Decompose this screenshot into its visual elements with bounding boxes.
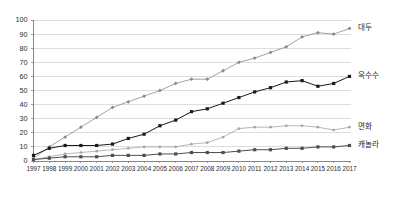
- data-point: [111, 154, 114, 157]
- series-label-4: 캐놀라: [358, 141, 379, 149]
- line-chart: 0102030405060708090100 19971998199920002…: [0, 0, 398, 204]
- data-point: [64, 144, 67, 147]
- data-point: [285, 124, 288, 127]
- axis-lines: [31, 20, 350, 163]
- data-point: [158, 89, 162, 93]
- data-point: [221, 69, 225, 73]
- data-point: [269, 148, 272, 151]
- data-point: [95, 155, 98, 158]
- data-point: [237, 60, 241, 64]
- data-point: [253, 148, 256, 151]
- data-point: [238, 127, 241, 130]
- series-label-1: 대두: [358, 24, 372, 32]
- y-tick-label: 50: [8, 87, 28, 94]
- y-tick-label: 30: [8, 115, 28, 122]
- data-point: [174, 82, 178, 86]
- chart-plot-area: [0, 0, 398, 204]
- data-point: [127, 154, 130, 157]
- data-point: [348, 27, 352, 31]
- data-point: [143, 146, 146, 149]
- y-tick-label: 20: [8, 129, 28, 136]
- data-point: [269, 51, 273, 55]
- data-point: [348, 144, 351, 147]
- data-point: [301, 147, 304, 150]
- data-point: [142, 94, 146, 98]
- data-point: [206, 141, 209, 144]
- y-tick-label: 80: [8, 45, 28, 52]
- data-point: [316, 85, 319, 88]
- data-point: [317, 126, 320, 129]
- gridlines: [34, 20, 351, 161]
- data-point: [32, 158, 35, 161]
- data-point: [253, 90, 256, 93]
- data-point: [48, 147, 51, 150]
- data-point: [206, 107, 209, 110]
- data-point: [79, 155, 82, 158]
- data-point: [127, 147, 130, 150]
- data-point: [64, 153, 67, 156]
- data-point: [32, 154, 35, 157]
- data-point: [126, 100, 130, 104]
- data-point: [222, 136, 225, 139]
- data-point: [300, 35, 304, 39]
- data-point: [332, 82, 335, 85]
- y-tick-label: 60: [8, 73, 28, 80]
- y-tick-label: 0: [8, 157, 28, 164]
- data-point: [158, 124, 161, 127]
- data-point: [348, 126, 351, 129]
- data-point: [111, 142, 114, 145]
- data-point: [63, 135, 67, 139]
- data-point: [190, 143, 193, 146]
- series-1: [32, 27, 352, 161]
- data-point: [332, 129, 335, 132]
- data-point: [190, 77, 194, 81]
- data-point: [95, 150, 98, 153]
- data-point: [159, 146, 162, 149]
- data-point: [79, 144, 82, 147]
- y-tick-label: 10: [8, 143, 28, 150]
- data-point: [348, 75, 351, 78]
- data-point: [301, 124, 304, 127]
- data-point: [64, 155, 67, 158]
- data-point: [237, 96, 240, 99]
- y-tick-label: 100: [8, 16, 28, 23]
- data-point: [174, 119, 177, 122]
- data-point: [190, 151, 193, 154]
- data-point: [332, 145, 335, 148]
- data-point: [95, 144, 98, 147]
- data-point: [190, 110, 193, 113]
- data-point: [285, 80, 288, 83]
- data-point: [143, 154, 146, 157]
- y-tick-label: 70: [8, 59, 28, 66]
- data-point: [222, 102, 225, 105]
- data-point: [79, 125, 83, 129]
- data-point: [206, 151, 209, 154]
- data-point: [253, 56, 257, 60]
- data-point: [269, 86, 272, 89]
- data-point: [237, 150, 240, 153]
- data-point: [127, 137, 130, 140]
- y-tick-label: 40: [8, 101, 28, 108]
- series-label-2: 옥수수: [358, 72, 379, 80]
- data-point: [316, 145, 319, 148]
- data-point: [332, 32, 336, 36]
- y-tick-label: 90: [8, 31, 28, 38]
- data-point: [222, 151, 225, 154]
- data-point: [174, 152, 177, 155]
- data-point: [174, 146, 177, 149]
- data-point: [269, 126, 272, 129]
- data-point: [253, 126, 256, 129]
- data-point: [111, 148, 114, 151]
- data-point: [111, 106, 115, 110]
- data-point: [301, 79, 304, 82]
- data-point: [48, 157, 51, 160]
- data-point: [80, 151, 83, 154]
- x-tick-label: 2017: [339, 166, 361, 172]
- data-point: [143, 133, 146, 136]
- data-series-group: [32, 27, 352, 162]
- data-point: [158, 152, 161, 155]
- data-point: [205, 77, 209, 81]
- series-label-3: 면화: [358, 123, 372, 131]
- data-point: [285, 147, 288, 150]
